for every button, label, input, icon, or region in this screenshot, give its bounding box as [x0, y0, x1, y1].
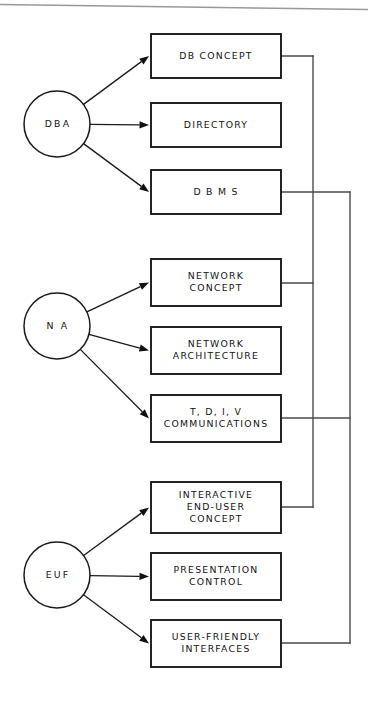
role-node-na[interactable]: N A [24, 293, 90, 359]
topic-label-line: NETWORK [188, 338, 244, 349]
scan-edge-artifact [0, 5, 368, 10]
topic-label-line: CONTROL [189, 576, 243, 587]
role-arrow-layer [80, 56, 149, 644]
node-layer: DB CONCEPTDIRECTORYD B M SNETWORKCONCEPT… [24, 34, 281, 667]
arrow-head [139, 635, 149, 644]
role-node-dba[interactable]: DBA [24, 91, 90, 157]
arrow-shaft [90, 576, 140, 577]
arrow-head [139, 573, 149, 580]
connector-bus-layer [281, 56, 350, 643]
role-label: EUF [46, 569, 71, 580]
topic-label-line: PRESENTATION [174, 564, 259, 575]
arrow-head [139, 56, 149, 65]
topic-node-user-friendly[interactable]: USER-FRIENDLYINTERFACES [151, 620, 281, 667]
topic-label-line: DB CONCEPT [179, 50, 252, 61]
topic-label-line: COMMUNICATIONS [164, 418, 269, 429]
arrow-shaft [87, 287, 141, 312]
topic-label-line: T, D, I, V [189, 406, 242, 417]
topic-node-network-arch[interactable]: NETWORKARCHITECTURE [151, 327, 281, 374]
role-node-euf[interactable]: EUF [24, 542, 90, 608]
topic-label-line: ARCHITECTURE [173, 350, 259, 361]
topic-label-line: DIRECTORY [184, 119, 249, 130]
arrow-head [139, 508, 149, 517]
arrow-shaft [83, 595, 141, 638]
arrow-head [139, 121, 149, 128]
topic-label-line: INTERFACES [181, 643, 250, 654]
topic-node-interactive-enduser[interactable]: INTERACTIVEEND-USERCONCEPT [151, 482, 281, 533]
topic-node-db-concept[interactable]: DB CONCEPT [151, 34, 281, 78]
topic-label-line: D B M S [193, 186, 238, 197]
topic-node-presentation[interactable]: PRESENTATIONCONTROL [151, 553, 281, 600]
topic-label-line: NETWORK [188, 270, 244, 281]
topic-label-line: END-USER [187, 501, 245, 512]
role-label: N A [47, 320, 70, 331]
topic-label-line: CONCEPT [189, 282, 242, 293]
arrow-head [139, 183, 149, 192]
topic-label-line: USER-FRIENDLY [172, 631, 260, 642]
arrow-shaft [89, 334, 140, 348]
topic-label-line: CONCEPT [189, 513, 242, 524]
arrow-head [139, 345, 149, 352]
topic-node-network-concept[interactable]: NETWORKCONCEPT [151, 259, 281, 306]
topic-node-directory[interactable]: DIRECTORY [151, 103, 281, 147]
arrow-shaft [80, 349, 142, 411]
arrow-shaft [84, 144, 142, 187]
topic-label-line: INTERACTIVE [179, 489, 253, 500]
arrow-shaft [84, 62, 142, 105]
topic-node-tdiv-comms[interactable]: T, D, I, VCOMMUNICATIONS [151, 395, 281, 442]
diagram-svg: DB CONCEPTDIRECTORYD B M SNETWORKCONCEPT… [0, 0, 368, 703]
topic-node-dbms[interactable]: D B M S [151, 170, 281, 214]
role-label: DBA [45, 118, 72, 129]
arrow-shaft [90, 124, 140, 125]
arrow-head [139, 283, 149, 290]
arrow-shaft [84, 513, 142, 555]
diagram-canvas: DB CONCEPTDIRECTORYD B M SNETWORKCONCEPT… [0, 0, 368, 703]
